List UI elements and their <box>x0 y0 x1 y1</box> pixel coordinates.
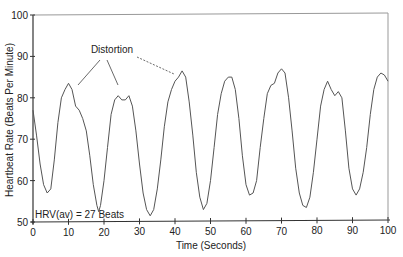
y-axis-label: Heartbeat Rate (Beats Per Minute) <box>4 43 15 197</box>
x-tick-label: 20 <box>98 227 110 238</box>
x-tick-label: 40 <box>169 226 181 237</box>
x-tick-label: 60 <box>240 226 252 237</box>
y-tick-label: 80 <box>17 93 29 104</box>
y-tick-label: 70 <box>17 134 29 145</box>
hrv-average-label: HRV(av) = 27 Beats <box>35 209 124 220</box>
x-tick-label: 100 <box>380 225 397 236</box>
y-tick-label: 100 <box>11 10 28 21</box>
data-series <box>33 69 388 216</box>
distortion-label: Distortion <box>91 44 133 55</box>
y-tick-label: 60 <box>17 176 29 187</box>
annotations: DistortionHRV(av) = 27 Beats <box>35 44 174 220</box>
y-tick-label: 90 <box>17 51 29 62</box>
x-tick-label: 50 <box>205 226 217 237</box>
x-tick-label: 80 <box>311 225 323 236</box>
x-tick-label: 10 <box>63 227 75 238</box>
x-tick-label: 70 <box>276 226 288 237</box>
distortion-pointer <box>107 60 118 85</box>
distortion-pointer <box>137 57 174 74</box>
heartbeat-chart: 5060708090100 0102030405060708090100 Dis… <box>0 0 403 257</box>
x-tick-label: 30 <box>134 226 146 237</box>
x-tick-label: 0 <box>30 227 36 238</box>
x-tick-label: 90 <box>347 225 359 236</box>
distortion-pointer <box>78 60 100 85</box>
top-border <box>33 13 388 15</box>
x-axis-label: Time (Seconds) <box>176 240 246 251</box>
y-tick-label: 50 <box>17 217 29 228</box>
heartbeat-line <box>33 69 388 216</box>
plot-frame <box>31 13 390 224</box>
